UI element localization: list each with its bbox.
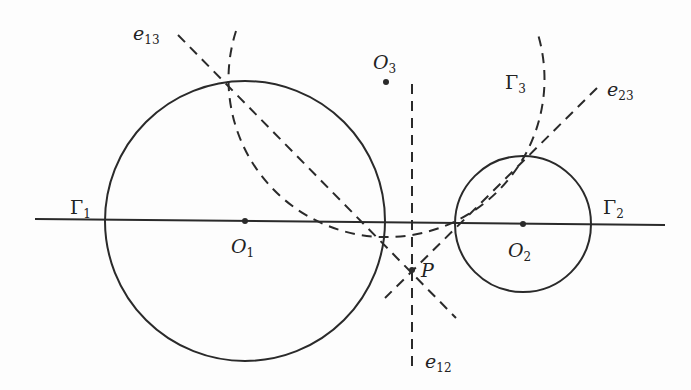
label-o2: O2 xyxy=(508,241,531,263)
label-e12: e12 xyxy=(425,352,452,374)
geometry-drawing xyxy=(0,0,691,390)
label-e13: e13 xyxy=(133,24,160,46)
label-gamma1: Γ1 xyxy=(70,198,91,220)
label-o1: O1 xyxy=(231,237,254,259)
point-o3 xyxy=(383,79,389,85)
diagram-canvas: Γ1 Γ2 Γ3 O1 O2 O3 P e12 e13 e23 xyxy=(0,0,691,390)
label-o3: O3 xyxy=(373,53,396,75)
label-gamma2: Γ2 xyxy=(603,198,624,220)
point-o1 xyxy=(242,218,248,224)
point-p xyxy=(409,267,415,273)
point-o2 xyxy=(520,221,526,227)
label-p: P xyxy=(421,261,434,280)
label-gamma3: Γ3 xyxy=(505,73,526,95)
radical-axis-e23 xyxy=(385,88,597,298)
center-line xyxy=(35,219,665,225)
radical-axis-e13 xyxy=(178,35,456,318)
label-e23: e23 xyxy=(607,80,634,102)
